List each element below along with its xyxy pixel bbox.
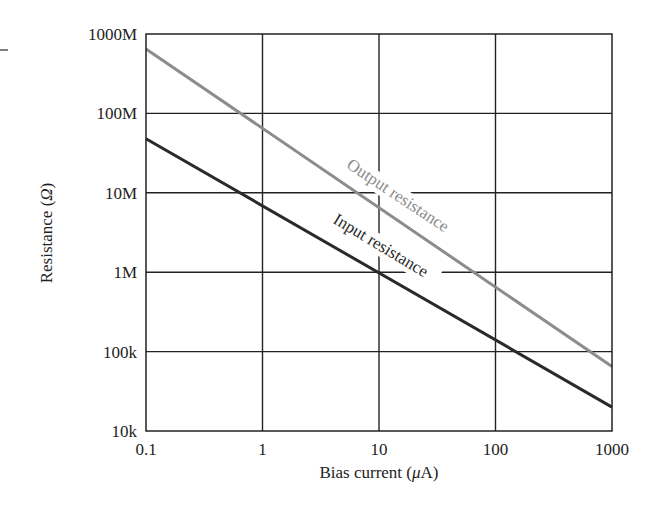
- y-tick-label: 100M: [96, 104, 137, 123]
- svg-text:Input resistance: Input resistance: [330, 210, 432, 281]
- x-tick-label: 1: [258, 440, 267, 459]
- y-tick-labels: 1000M100M10M1M100k10k: [88, 25, 138, 441]
- y-tick-label: 1000M: [88, 25, 137, 44]
- x-tick-label: 100: [483, 440, 509, 459]
- y-tick-label: 10M: [105, 184, 137, 203]
- chart: Output resistanceInput resistance 0.1110…: [0, 0, 658, 528]
- x-tick-label: 10: [371, 440, 388, 459]
- y-axis-label: Resistance (Ω): [37, 183, 56, 284]
- y-tick-label: 10k: [112, 422, 138, 441]
- x-tick-label: 0.1: [135, 440, 156, 459]
- x-axis-label: Bias current (μA): [319, 463, 438, 482]
- x-tick-label: 1000: [595, 440, 629, 459]
- series-labels: Output resistanceInput resistance: [319, 151, 458, 288]
- x-tick-labels: 0.11101001000: [135, 440, 629, 459]
- y-tick-label: 100k: [103, 343, 138, 362]
- y-tick-label: 1M: [113, 263, 137, 282]
